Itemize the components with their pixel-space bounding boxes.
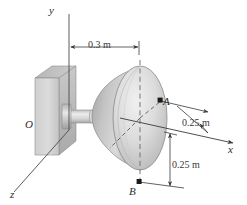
dimension-label-axial-offset: 0.3 m: [88, 40, 111, 50]
axis-label-y: y: [49, 5, 54, 16]
point-b-marker: [137, 179, 142, 184]
figure-drawing: [0, 0, 247, 205]
origin-label-o: O: [25, 119, 33, 130]
point-label-b: B: [129, 186, 136, 197]
shaft: [62, 104, 95, 129]
dimension-label-radius-a: 0.25 m: [182, 118, 210, 128]
axis-label-x: x: [228, 144, 233, 155]
point-a-marker: [158, 98, 163, 103]
mechanics-figure: y x z O A B 0.3 m 0.25 m 0.25 m: [0, 0, 247, 205]
dimension-label-radius-b: 0.25 m: [172, 160, 200, 170]
axis-label-z: z: [10, 189, 14, 200]
point-label-a: A: [163, 96, 170, 107]
